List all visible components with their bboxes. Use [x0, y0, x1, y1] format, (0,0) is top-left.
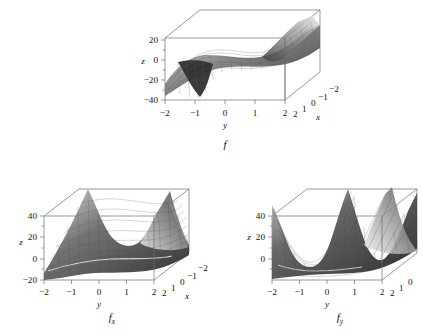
caption-fy: fy — [310, 311, 370, 326]
y-tick-label: 1 — [124, 287, 129, 297]
y-axis-label: y — [324, 299, 330, 309]
x-tick-label: 2 — [390, 288, 395, 298]
x-axis-label: x — [315, 112, 321, 122]
x-tick-label: 0 — [311, 98, 316, 108]
caption-fx-sub: x — [112, 317, 115, 326]
x-tick-label: 2 — [162, 288, 167, 298]
y-axis-label: y — [222, 120, 228, 130]
z-tick-label: −20 — [144, 75, 159, 85]
z-tick-label: 0 — [260, 254, 265, 264]
y-tick-label: −1 — [190, 108, 200, 118]
z-tick-label: −40 — [144, 95, 159, 105]
y-tick-label: 0 — [223, 108, 228, 118]
y-tick-label: 1 — [253, 108, 258, 118]
surface-plot-fx: 40 20 0 −20 z −2 −1 0 1 2 y 2 — [4, 183, 219, 313]
caption-f: f — [195, 138, 255, 150]
y-tick-label: 1 — [352, 287, 357, 297]
z-axis-label: z — [18, 237, 23, 247]
y-tick-label: 2 — [380, 287, 385, 297]
z-axis-label: z — [246, 232, 251, 242]
x-tick-label: 0 — [408, 277, 413, 287]
x-tick-label: −1 — [187, 271, 197, 281]
x-tick-label: −2 — [198, 263, 208, 273]
x-axis-label: x — [184, 291, 190, 301]
y-tick-label: −2 — [160, 108, 170, 118]
z-axis-fy: 40 20 0 z — [246, 211, 272, 269]
panel-f: 20 0 −20 −40 z −2 −1 0 1 2 y — [130, 2, 345, 132]
z-tick-label: 40 — [256, 211, 266, 221]
y-tick-label: −2 — [39, 287, 49, 297]
z-tick-label: 20 — [256, 232, 266, 242]
caption-f-base: f — [223, 138, 226, 150]
z-axis-fx: 40 20 0 −20 z — [18, 211, 44, 285]
x-tick-label: 1 — [171, 283, 176, 293]
y-tick-label: −2 — [267, 287, 277, 297]
figure-three-surface-plots: 20 0 −20 −40 z −2 −1 0 1 2 y — [0, 0, 423, 336]
y-axis-fx: −2 −1 0 1 2 y — [39, 280, 157, 309]
z-tick-label: 40 — [28, 211, 38, 221]
y-tick-label: −1 — [67, 287, 77, 297]
z-axis-f: 20 0 −20 −40 z — [140, 35, 165, 105]
z-axis-label: z — [140, 56, 145, 66]
x-tick-label: 0 — [180, 277, 185, 287]
z-tick-label: −20 — [23, 275, 38, 285]
surface-plot-fy: 40 20 0 z −2 −1 0 1 2 y 2 1 0 — [232, 183, 423, 313]
y-tick-label: 2 — [152, 287, 157, 297]
x-tick-label: 1 — [399, 283, 404, 293]
z-tick-label: 0 — [153, 55, 158, 65]
x-axis-f: 2 1 0 −1 −2 x — [293, 84, 339, 122]
z-tick-label: 20 — [149, 35, 159, 45]
y-tick-label: −1 — [295, 287, 305, 297]
z-tick-label: 0 — [32, 254, 37, 264]
caption-fy-sub: y — [340, 317, 343, 326]
panel-fy: 40 20 0 z −2 −1 0 1 2 y 2 1 0 — [232, 183, 423, 313]
y-tick-label: 2 — [283, 108, 288, 118]
y-axis-fy: −2 −1 0 1 2 y — [267, 280, 385, 309]
x-tick-label: −2 — [329, 84, 339, 94]
x-axis-fy: 2 1 0 — [390, 277, 413, 298]
caption-fx: fx — [82, 311, 142, 326]
z-tick-label: 20 — [28, 232, 38, 242]
surface-plot-f: 20 0 −20 −40 z −2 −1 0 1 2 y — [130, 2, 345, 132]
y-tick-label: 0 — [325, 287, 330, 297]
x-tick-label: −1 — [318, 92, 328, 102]
y-axis-label: y — [96, 299, 102, 309]
x-tick-label: 1 — [302, 104, 307, 114]
y-axis-f: −2 −1 0 1 2 y — [160, 100, 288, 130]
x-tick-label: 2 — [293, 109, 298, 119]
y-tick-label: 0 — [97, 287, 102, 297]
panel-fx: 40 20 0 −20 z −2 −1 0 1 2 y 2 — [4, 183, 219, 313]
